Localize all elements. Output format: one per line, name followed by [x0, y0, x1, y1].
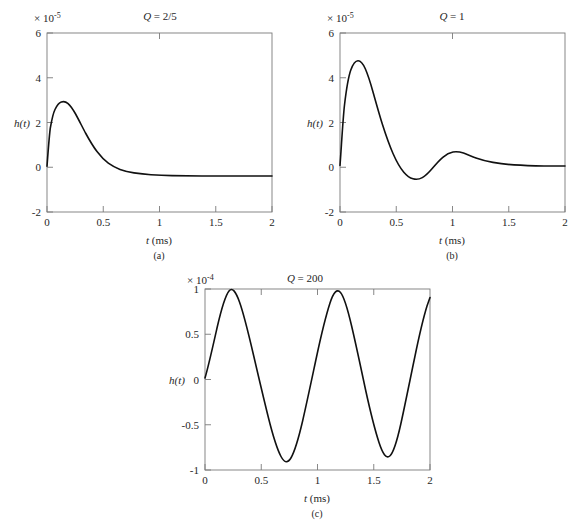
plot-frame — [340, 33, 565, 212]
panel-c-svg: × 10-4 Q = 200 1 0.5 0 -0.5 -1 0 0.5 — [145, 262, 445, 524]
y-tick-label-6: 6 — [329, 27, 335, 39]
x-axis-label: t (ms) — [439, 234, 465, 247]
x-tick-label-1p5: 1.5 — [502, 216, 516, 228]
x-axis-label: t (ms) — [304, 492, 330, 505]
y-tick-label-2: 2 — [329, 117, 335, 129]
y-tick-label-minus2: -2 — [32, 206, 41, 218]
x-tick-label-0p5: 0.5 — [389, 216, 403, 228]
panel-title: Q = 2/5 — [143, 10, 177, 22]
y-tick-label-0: 0 — [36, 161, 42, 173]
x-tick-label-0: 0 — [44, 216, 50, 228]
y-tick-label-0: 0 — [194, 374, 200, 386]
x-tick-label-2: 2 — [269, 216, 275, 228]
y-tick-label-minus0p5: -0.5 — [182, 419, 200, 431]
y-tick-label-4: 4 — [36, 72, 42, 84]
panel-title: Q = 1 — [439, 10, 464, 22]
y-axis-label: h(t) — [169, 374, 185, 387]
panel-c: × 10-4 Q = 200 1 0.5 0 -0.5 -1 0 0.5 — [145, 262, 445, 524]
y-axis-exponent-label: × 10-5 — [34, 11, 61, 24]
panel-b: × 10-5 Q = 1 6 4 2 0 -2 0 0.5 1 1.5 2 — [292, 0, 585, 262]
panel-caption: (a) — [153, 250, 164, 262]
x-tick-label-0: 0 — [337, 216, 343, 228]
x-tick-label-0p5: 0.5 — [254, 474, 268, 486]
y-tick-label-2: 2 — [36, 117, 42, 129]
data-curve-a — [47, 102, 272, 176]
x-tick-label-1: 1 — [157, 216, 163, 228]
y-tick-label-4: 4 — [329, 72, 335, 84]
y-axis-exponent-label: × 10-5 — [327, 11, 354, 24]
y-tick-label-minus1: -1 — [190, 464, 199, 476]
data-curve-b — [340, 61, 565, 180]
figure-impulse-responses: × 10-5 Q = 2/5 6 4 2 0 -2 — [0, 0, 585, 524]
x-tick-label-0p5: 0.5 — [96, 216, 110, 228]
panel-a: × 10-5 Q = 2/5 6 4 2 0 -2 — [0, 0, 292, 262]
panel-caption: (b) — [446, 250, 458, 262]
panel-title: Q = 200 — [287, 272, 324, 284]
x-tick-label-0: 0 — [202, 474, 208, 486]
panel-b-svg: × 10-5 Q = 1 6 4 2 0 -2 0 0.5 1 1.5 2 — [292, 0, 585, 262]
x-tick-label-1: 1 — [450, 216, 456, 228]
x-tick-label-2: 2 — [562, 216, 568, 228]
y-axis-label: h(t) — [307, 117, 323, 130]
x-tick-label-1p5: 1.5 — [367, 474, 381, 486]
x-tick-label-2: 2 — [427, 474, 433, 486]
panel-a-svg: × 10-5 Q = 2/5 6 4 2 0 -2 — [0, 0, 292, 262]
x-tick-label-1p5: 1.5 — [209, 216, 223, 228]
y-axis-label: h(t) — [14, 117, 30, 130]
x-tick-label-1: 1 — [315, 474, 321, 486]
y-tick-label-0: 0 — [329, 161, 335, 173]
x-axis-label: t (ms) — [146, 234, 172, 247]
y-tick-label-0p5: 0.5 — [185, 328, 199, 340]
y-axis-exponent-label: × 10-4 — [187, 273, 214, 286]
y-tick-label-minus2: -2 — [325, 206, 334, 218]
panel-caption: (c) — [311, 508, 322, 520]
y-tick-label-1: 1 — [194, 283, 200, 295]
data-curve-c — [205, 290, 430, 462]
y-tick-label-6: 6 — [36, 27, 42, 39]
